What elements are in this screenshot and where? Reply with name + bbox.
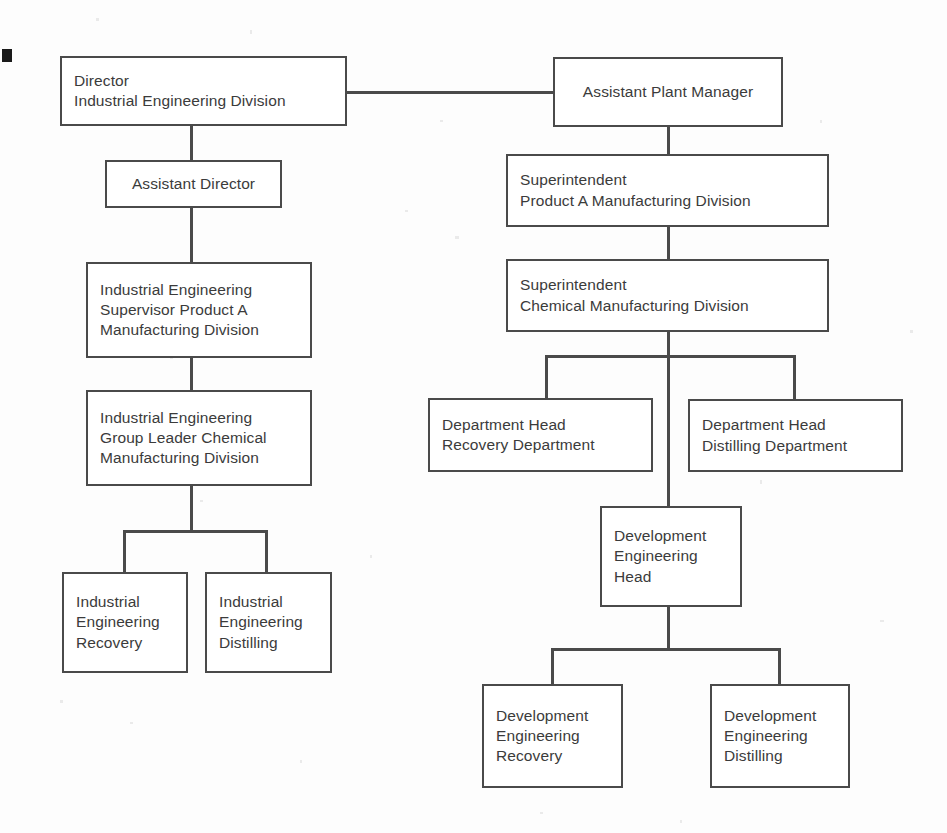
node-development-engineering-head[interactable]: Development Engineering Head xyxy=(600,506,742,607)
node-development-distilling[interactable]: Development Engineering Distilling xyxy=(710,684,850,788)
node-assistant-director[interactable]: Assistant Director xyxy=(105,160,282,208)
org-chart-canvas: Director Industrial Engineering Division… xyxy=(0,0,947,833)
connector-director-to-assistant-director xyxy=(190,126,193,160)
connector-assistant-director-to-ie-supervisor xyxy=(190,208,193,262)
connector-dev-head-stem xyxy=(667,607,670,648)
node-ie-distilling[interactable]: Industrial Engineering Distilling xyxy=(205,572,332,673)
node-ie-supervisor-product-a[interactable]: Industrial Engineering Supervisor Produc… xyxy=(86,262,312,358)
connector-director-to-assistant-plant-manager xyxy=(347,91,553,94)
node-dept-head-recovery[interactable]: Department Head Recovery Department xyxy=(428,398,653,472)
node-ie-group-leader-chemical[interactable]: Industrial Engineering Group Leader Chem… xyxy=(86,390,312,486)
connector-superintendent-product-a-to-chemical xyxy=(667,227,670,259)
page-crop-mark xyxy=(2,49,12,62)
connector-crossbar-to-development-recovery xyxy=(551,648,554,684)
node-director[interactable]: Director Industrial Engineering Division xyxy=(60,56,347,126)
connector-superintendent-chemical-spine xyxy=(667,332,670,506)
node-superintendent-chemical[interactable]: Superintendent Chemical Manufacturing Di… xyxy=(506,259,829,332)
connector-dev-children-crossbar xyxy=(551,648,780,651)
node-superintendent-product-a[interactable]: Superintendent Product A Manufacturing D… xyxy=(506,154,829,227)
connector-ie-crossbar-to-recovery xyxy=(123,530,126,572)
connector-ie-group-leader-crossbar xyxy=(123,530,268,533)
node-assistant-plant-manager[interactable]: Assistant Plant Manager xyxy=(553,57,783,127)
connector-crossbar-to-dept-head-recovery xyxy=(545,355,548,398)
connector-crossbar-to-development-distilling xyxy=(778,648,781,684)
connector-crossbar-to-dept-head-distilling xyxy=(793,355,796,399)
node-dept-head-distilling[interactable]: Department Head Distilling Department xyxy=(688,399,903,472)
node-ie-recovery[interactable]: Industrial Engineering Recovery xyxy=(62,572,188,673)
connector-ie-supervisor-to-ie-group-leader xyxy=(190,358,193,390)
connector-department-heads-crossbar xyxy=(545,355,795,358)
connector-apm-to-superintendent-product-a xyxy=(667,127,670,154)
node-development-recovery[interactable]: Development Engineering Recovery xyxy=(482,684,623,788)
connector-ie-group-leader-stem xyxy=(190,486,193,530)
connector-ie-crossbar-to-distilling xyxy=(265,530,268,572)
